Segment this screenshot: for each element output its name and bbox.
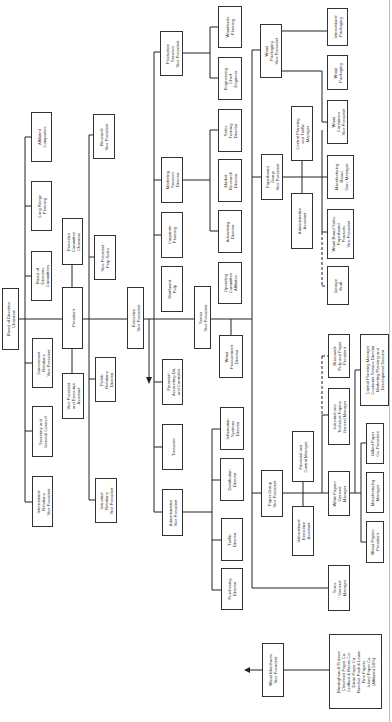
org-node-label: Treasurer — [170, 438, 175, 456]
org-node-label: Research Vice President — [99, 123, 109, 150]
org-node-label: Wood Containers Vice President — [330, 109, 345, 136]
org-node-label: Brunswick Pulp and Paper President — [332, 342, 347, 371]
org-node-board: Board of Directors Chairman — [2, 288, 19, 350]
org-node-label: Control Planning Manager Customer Servic… — [365, 345, 385, 394]
org-node-label: Wood Board Sales Paperboard Products Vic… — [331, 217, 351, 252]
org-node-label: President — [70, 309, 75, 327]
org-node-label: Industrial Relations Vice President — [99, 487, 114, 514]
org-node-label: Central Planning and Traffic Manager — [295, 118, 310, 149]
org-node-industrial-technical: Industrial and Technical Papers General … — [328, 388, 350, 445]
org-node-financial-control: Financial and Control Manager — [292, 431, 314, 482]
org-node-merchant-list: Birmingham & Prosser Cleveland Paper Co.… — [329, 634, 382, 709]
org-node-affiliated: Affiliated Companies — [31, 112, 52, 162]
org-node-wood-board-sales: Wood Board Sales Paperboard Products Vic… — [327, 209, 354, 259]
org-node-label: Senior Vice President — [198, 304, 208, 331]
org-node-label: Secretary and General Counsel — [38, 416, 48, 447]
org-node-trans-general: Trans General Manager — [328, 565, 350, 611]
org-node-label: Wood Packaging — [333, 63, 343, 83]
org-node-label: Paperboard Group Vice President — [265, 164, 280, 191]
org-node-board-committees: Board of Directors Committees — [31, 251, 52, 301]
org-node-exec-vp: Executive Vice President — [127, 287, 144, 349]
org-node-label: Sales Training Director — [223, 123, 238, 138]
org-node-vp-exec-asst: Vice President and Executive Assistant — [62, 373, 84, 419]
org-node-admin-vp: Administrative Vice President — [162, 489, 183, 536]
org-node-northwest-pulp: Northwest Pulp — [161, 266, 183, 312]
org-node-label: Administrative Vice President — [168, 499, 178, 526]
org-node-label: Wood Papers President — [370, 529, 380, 554]
org-node-vp-pulp-sales: Vice President Pulp Sales — [94, 235, 116, 280]
org-node-label: White Papers General Manager — [332, 481, 347, 506]
org-node-white-papers: White Papers General Manager — [328, 471, 350, 516]
org-node-label: Operating Committee Affiliates — [223, 273, 238, 293]
org-node-research-vp: Research Vice President — [93, 114, 115, 159]
org-node-label: Purchasing Director — [227, 579, 237, 600]
org-node-label: Public Relations Director — [98, 371, 113, 388]
org-node-sales-training: Sales Training Director — [218, 109, 242, 152]
org-node-wood-papers-pres: Wood Papers President — [366, 521, 384, 563]
org-node-label: Financial Accounting Dir. and Controller — [165, 368, 180, 396]
org-node-control-planning: Control Planning Manager Customer Servic… — [360, 334, 389, 406]
org-node-label: Market Research Director — [223, 172, 238, 190]
org-node-traffic: Traffic Director — [221, 518, 243, 561]
org-node-paper-group-vp: Paper Group Vice President — [261, 470, 283, 517]
org-node-label: Long Range Planning — [37, 195, 47, 218]
org-node-operating-committee: Operating Committee Affiliates — [218, 262, 242, 304]
org-node-label: International Executive Assistant — [296, 519, 311, 542]
org-node-label: Marketing Services Director — [165, 171, 180, 189]
org-node-label: Financial and Control Manager — [298, 441, 308, 472]
org-node-govt-relations: Government Relations Vice President — [32, 338, 53, 388]
org-node-wood-packaging: Wood Packaging — [327, 55, 348, 90]
org-node-label: Birmingham & Prosser Cleveland Paper Co.… — [336, 651, 376, 693]
org-node-advertising: Advertising Director — [218, 210, 242, 253]
org-node-exec-committee: Executive Committee Chairman — [62, 218, 83, 265]
org-node-brunswick: Brunswick Pulp and Paper President — [328, 334, 350, 378]
org-node-purchasing: Purchasing Director — [221, 568, 243, 610]
org-node-treasurer: Treasurer — [162, 424, 183, 470]
org-node-wood-procurement: Wood Procurement Director — [219, 335, 243, 378]
org-node-market-research: Market Research Director — [218, 159, 242, 202]
org-node-label: Paper Group Vice President — [267, 480, 277, 507]
org-node-label: George Kraft — [333, 279, 343, 293]
org-node-label: Manufacturing Manager — [370, 479, 380, 506]
org-node-label: Board of Directors Committees — [34, 265, 49, 287]
org-node-label: Engineering Chief Engineer — [223, 67, 238, 89]
org-node-corporate-planning: Corporate Planning — [161, 212, 183, 258]
org-node-label: Administrative Assistant — [297, 208, 307, 234]
org-node-engineering: Engineering Chief Engineer — [218, 57, 242, 100]
org-node-label: Industrial and Technical Papers General … — [332, 400, 347, 433]
org-node-admin-assistant: Administrative Assistant — [291, 193, 313, 249]
org-node-label: Corporate Planning — [167, 226, 177, 245]
org-node-label: Wood Procurement Director — [224, 345, 239, 369]
org-node-label: Woodlands Planning — [225, 17, 235, 38]
org-node-label: Trans General Manager — [332, 580, 347, 597]
org-node-label: Northwest Pulp — [167, 280, 177, 299]
org-node-label: Vice President and Executive Assistant — [66, 383, 81, 410]
org-node-wood-packaging-vp: Wood Packaging Vice President — [260, 24, 282, 78]
org-node-distribution: Distribution Director — [220, 458, 244, 501]
org-node-label: Wood Merchants Vice President — [268, 654, 278, 686]
org-node-gilbert-paper: Gilbert Paper Co. President — [366, 423, 384, 464]
org-node-public-relations: Public Relations Director — [95, 357, 116, 402]
org-node-wood-merchants-vp: Wood Merchants Vice President — [262, 643, 284, 697]
org-node-label: Affiliated Companies — [37, 126, 47, 147]
org-node-label: Board of Directors Chairman — [6, 302, 16, 336]
org-node-label: Traffic Director — [227, 532, 237, 547]
org-node-info-systems: Information Systems Director — [220, 407, 244, 450]
org-node-secretary: Secretary and General Counsel — [32, 406, 53, 457]
org-node-industrial-relations: Industrial Relations Vice President — [95, 478, 117, 523]
org-node-manufacturing-mgr: Manufacturing Manager — [366, 472, 384, 513]
org-node-label: Distribution Director — [227, 469, 237, 490]
org-node-label: International Packaging — [333, 15, 343, 38]
org-node-senior-vp: Senior Vice President — [194, 286, 211, 349]
org-node-intl-exec-asst: International Executive Assistant — [292, 506, 314, 556]
org-node-long-range: Long Range Planning — [31, 181, 52, 231]
org-node-label: Manufacturing Board Gen. Manager — [333, 164, 348, 191]
org-node-president: President — [62, 287, 83, 349]
org-node-central-planning: Central Planning and Traffic Manager — [291, 106, 313, 161]
org-node-label: Vice President Pulp Sales — [100, 244, 110, 271]
org-node-label: Information Systems Director — [225, 418, 240, 439]
org-node-marketing-dir: Marketing Services Director — [161, 157, 183, 203]
org-node-woodlands: Woodlands Planning — [218, 6, 242, 48]
org-node-label: Government Relations Vice President — [35, 350, 50, 377]
org-node-wood-containers-vp: Wood Containers Vice President — [327, 100, 348, 144]
